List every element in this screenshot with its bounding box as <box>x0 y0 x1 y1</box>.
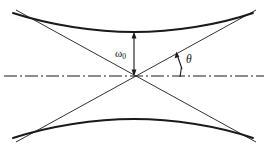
beam-waist-label: ω0 <box>115 48 126 61</box>
beam-waist-figure: ω0 θ <box>0 0 268 150</box>
divergence-angle-label: θ <box>186 54 192 66</box>
lower-beam-envelope <box>13 119 253 138</box>
waist-dimension-arrow <box>132 32 137 77</box>
upper-beam-envelope <box>13 13 253 32</box>
beam-diagram-svg <box>0 0 268 150</box>
omega-subscript: 0 <box>122 52 126 61</box>
theta-leader-arrow <box>175 52 182 70</box>
